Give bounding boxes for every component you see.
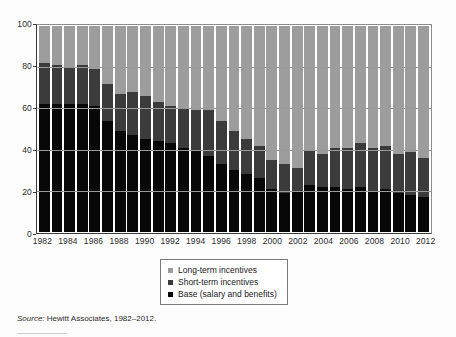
bar-segment-base (178, 148, 189, 232)
bar-column (342, 26, 353, 232)
x-tick-label-2002: 2002 (288, 236, 307, 246)
bar-segment-long-term (330, 26, 341, 148)
bar-segment-short-term (178, 108, 189, 147)
chart-legend: Long-term incentives Short-term incentiv… (160, 259, 288, 305)
bar-column (393, 26, 404, 232)
bar-column (418, 26, 429, 232)
bar-segment-base (355, 187, 366, 232)
y-tick-label-80: 80 (22, 61, 32, 71)
bar-segment-long-term (355, 26, 366, 143)
x-tick-label-2006: 2006 (339, 236, 358, 246)
bar-segment-short-term (393, 154, 404, 193)
y-tick-mark-60 (33, 108, 36, 109)
bar-column (266, 26, 277, 232)
bar-segment-long-term (165, 26, 176, 106)
y-tick-mark-0 (33, 234, 36, 235)
bar-segment-base (127, 135, 138, 232)
bar-segment-base (165, 143, 176, 232)
bar-segment-short-term (64, 67, 75, 104)
bar-segment-long-term (203, 26, 214, 110)
bar-segment-base (89, 106, 100, 232)
bar-segment-long-term (317, 26, 328, 154)
legend-label-base: Base (salary and benefits) (178, 289, 277, 299)
bar-segment-long-term (115, 26, 126, 94)
bar-segment-base (115, 131, 126, 232)
y-tick-label-40: 40 (22, 145, 32, 155)
bar-column (279, 26, 290, 232)
bar-column (39, 26, 50, 232)
bar-column (127, 26, 138, 232)
bar-column (153, 26, 164, 232)
bar-column (304, 26, 315, 232)
legend-item-long-term: Long-term incentives (168, 264, 277, 276)
y-tick-mark-20 (33, 192, 36, 193)
y-tick-label-100: 100 (17, 19, 32, 29)
bar-segment-long-term (89, 26, 100, 69)
bar-column (115, 26, 126, 232)
bar-column (140, 26, 151, 232)
bar-segment-long-term (77, 26, 88, 65)
bar-column (292, 26, 303, 232)
bar-column (229, 26, 240, 232)
bar-segment-base (266, 189, 277, 232)
bar-segment-base (77, 104, 88, 232)
bar-segment-base (153, 141, 164, 232)
bar-column (52, 26, 63, 232)
bar-column (330, 26, 341, 232)
bar-column (203, 26, 214, 232)
bar-segment-long-term (52, 26, 63, 65)
bar-segment-short-term (241, 139, 252, 174)
y-tick-label-60: 60 (22, 103, 32, 113)
bar-segment-base (317, 187, 328, 232)
bar-column (102, 26, 113, 232)
source-prefix: Source: (17, 314, 45, 323)
bar-column (89, 26, 100, 232)
x-tick-label-1992: 1992 (160, 236, 179, 246)
bar-segment-long-term (229, 26, 240, 131)
bar-segment-base (330, 187, 341, 232)
bar-segment-base (140, 139, 151, 232)
bar-segment-short-term (229, 131, 240, 170)
legend-swatch-short-term-icon (168, 280, 173, 285)
bar-segment-base (418, 197, 429, 232)
bar-segment-short-term (153, 102, 164, 141)
bar-segment-short-term (342, 148, 353, 189)
legend-swatch-long-term-icon (168, 268, 173, 273)
legend-item-base: Base (salary and benefits) (168, 288, 277, 300)
bar-segment-long-term (64, 26, 75, 67)
x-tick-label-2004: 2004 (314, 236, 333, 246)
bar-segment-short-term (418, 158, 429, 197)
legend-swatch-base-icon (168, 292, 173, 297)
bar-segment-long-term (368, 26, 379, 148)
bar-segment-long-term (102, 26, 113, 84)
bar-column (317, 26, 328, 232)
bar-segment-base (191, 150, 202, 232)
x-tick-label-1994: 1994 (186, 236, 205, 246)
source-note: Source: Hewitt Associates, 1982–2012. (17, 314, 156, 323)
bar-segment-long-term (216, 26, 227, 121)
bar-series-group (38, 26, 430, 232)
bar-segment-short-term (292, 168, 303, 191)
bar-segment-base (292, 191, 303, 232)
bar-segment-base (393, 193, 404, 232)
bar-column (191, 26, 202, 232)
x-tick-label-1990: 1990 (135, 236, 154, 246)
bottom-rule (17, 333, 67, 334)
y-tick-label-20: 20 (22, 187, 32, 197)
y-tick-mark-100 (33, 24, 36, 25)
bar-column (380, 26, 391, 232)
bar-segment-base (64, 104, 75, 232)
bar-segment-base (102, 121, 113, 232)
bar-column (165, 26, 176, 232)
x-tick-label-2012: 2012 (416, 236, 435, 246)
bar-segment-short-term (115, 94, 126, 131)
bar-segment-base (39, 104, 50, 232)
x-tick-label-1982: 1982 (33, 236, 52, 246)
bar-segment-long-term (254, 26, 265, 145)
x-tick-label-1986: 1986 (84, 236, 103, 246)
bar-segment-short-term (191, 110, 202, 149)
x-tick-label-2010: 2010 (390, 236, 409, 246)
bar-segment-base (203, 156, 214, 232)
bar-segment-short-term (140, 96, 151, 139)
bar-segment-long-term (266, 26, 277, 160)
